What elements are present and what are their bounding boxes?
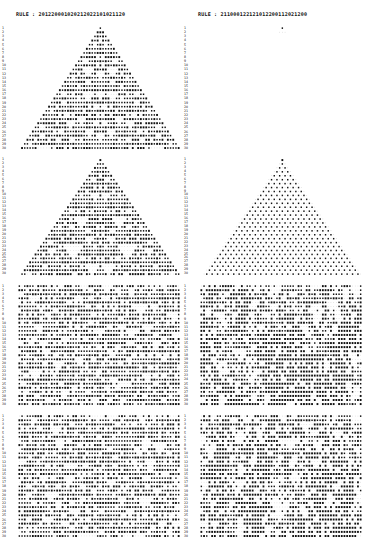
ca-pattern [18, 284, 180, 406]
row-number-column: 1234567891011121314151617181920212223242… [184, 414, 194, 538]
row-number-column: 1234567891011121314151617181920212223242… [2, 26, 12, 150]
ca-pattern [200, 26, 362, 150]
ca-panel-bottom-left: 1234567891011121314151617181920212223242… [2, 414, 180, 538]
ca-pattern [18, 26, 180, 150]
row-number-column: 1234567891011121314151617181920212223242… [2, 414, 12, 538]
row-number-column: 1234567891011121314151617181920212223242… [184, 26, 194, 150]
ca-pattern [200, 284, 362, 406]
ca-panel-bottom-right: 1234567891011121314151617181920212223242… [184, 414, 362, 538]
row-number-column: 1234567891011121314151617181920212223242… [184, 158, 194, 276]
row-number-column: 1234567891011121314151617181920212223242… [2, 284, 12, 406]
ca-panel-mid-right: 1234567891011121314151617181920212223242… [184, 158, 362, 276]
ca-panel-top-right: 1234567891011121314151617181920212223242… [184, 26, 362, 150]
ca-pattern [18, 158, 180, 276]
right-rule-label: RULE : 211000122121012200112021200 [198, 11, 307, 17]
left-rule-label: RULE : 201220001020212022101021120 [16, 11, 125, 17]
ca-panel-lower-left: 1234567891011121314151617181920212223242… [2, 284, 180, 406]
ca-panel-mid-left: 1234567891011121314151617181920212223242… [2, 158, 180, 276]
ca-panel-top-left: 1234567891011121314151617181920212223242… [2, 26, 180, 150]
ca-panel-lower-right: 1234567891011121314151617181920212223242… [184, 284, 362, 406]
row-number-column: 1234567891011121314151617181920212223242… [2, 158, 12, 276]
row-number-column: 1234567891011121314151617181920212223242… [184, 284, 194, 406]
ca-pattern [18, 414, 180, 538]
ca-pattern [200, 158, 362, 276]
ca-pattern [200, 414, 362, 538]
